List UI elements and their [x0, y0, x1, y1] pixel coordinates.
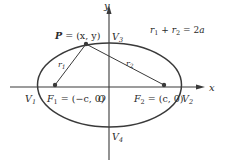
vertex-v4-label: V4	[112, 131, 123, 144]
vertex-v3-label: V3	[112, 31, 123, 44]
ellipse-diagram: x y O r1 + r2 = 2a P = (x, y) r1 r2 V1 V…	[0, 0, 229, 168]
focus-f1-label: F1 = (−c, 0)	[46, 93, 105, 106]
vertex-v1-label: V1	[25, 93, 36, 106]
segment-r2	[86, 44, 164, 85]
segment-r1-label: r1	[58, 60, 66, 70]
vertex-v2-label: V2	[182, 93, 193, 106]
point-p-dot	[84, 42, 88, 46]
segment-r2-label: r2	[126, 59, 134, 69]
focus-f2-label: F2 = (c, 0)	[133, 93, 184, 106]
equation-label: r1 + r2 = 2a	[150, 25, 205, 37]
point-p-label: P = (x, y)	[54, 30, 100, 41]
x-axis-arrow-icon	[196, 85, 205, 90]
y-axis-label: y	[103, 0, 110, 11]
focus-f2-dot	[162, 83, 166, 87]
x-axis-label: x	[209, 82, 215, 93]
focus-f1-dot	[53, 83, 57, 87]
